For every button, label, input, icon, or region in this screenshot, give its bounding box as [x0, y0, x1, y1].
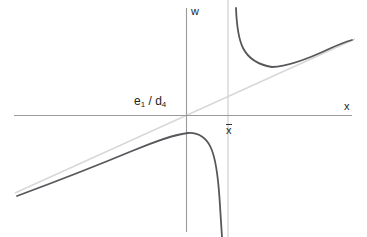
- intercept-divider: / d: [145, 94, 162, 108]
- curve-right-branch: [236, 8, 352, 67]
- graph-figure: w x e1 / d4 x: [0, 0, 367, 237]
- curve-left-branch: [17, 133, 222, 237]
- intercept-denominator-subscript: 4: [162, 100, 166, 109]
- w-axis-label: w: [191, 6, 199, 17]
- vertical-asymptote-label: x: [226, 124, 232, 136]
- x-axis-label: x: [344, 101, 350, 112]
- curve-group: [17, 8, 352, 237]
- axes-group: [14, 8, 352, 232]
- asymptote-group: [15, 0, 355, 237]
- x-bar-glyph: x: [226, 124, 232, 136]
- intercept-numerator-subscript: 1: [141, 100, 145, 109]
- intercept-numerator: e: [134, 94, 141, 108]
- w-intercept-label: e1 / d4: [134, 95, 166, 107]
- plot-canvas: [0, 0, 367, 237]
